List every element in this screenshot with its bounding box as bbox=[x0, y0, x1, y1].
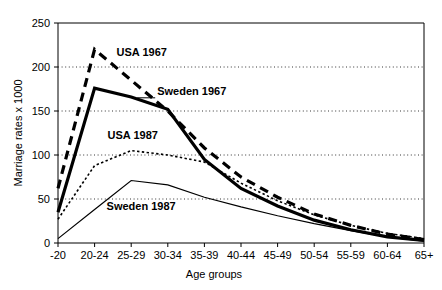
series-label-usa-1967: USA 1967 bbox=[117, 46, 167, 58]
x-tick-label: 60-64 bbox=[373, 249, 401, 261]
marriage-rates-line-chart: 050100150200250 -2020-2425-2930-3435-394… bbox=[0, 0, 442, 290]
x-axis-title: Age groups bbox=[186, 268, 243, 280]
x-tick-label: 20-24 bbox=[81, 249, 109, 261]
series-label-usa-1987: USA 1987 bbox=[108, 129, 158, 141]
y-tick-label: 50 bbox=[38, 193, 50, 205]
series-label-sweden-1967: Sweden 1967 bbox=[157, 85, 226, 97]
y-tick-label: 200 bbox=[32, 61, 50, 73]
y-tick-label: 100 bbox=[32, 149, 50, 161]
y-tick-label: 250 bbox=[32, 17, 50, 29]
y-tick-label: 150 bbox=[32, 105, 50, 117]
x-tick-label: 65+ bbox=[415, 249, 434, 261]
x-tick-label: 50-54 bbox=[300, 249, 328, 261]
x-tick-label: 40-44 bbox=[227, 249, 255, 261]
y-tick-label: 0 bbox=[44, 237, 50, 249]
x-tick-label: -20 bbox=[50, 249, 66, 261]
x-tick-label: 55-59 bbox=[337, 249, 365, 261]
series-label-sweden-1987: Sweden 1987 bbox=[107, 200, 176, 212]
chart-container: 050100150200250 -2020-2425-2930-3435-394… bbox=[0, 0, 442, 290]
x-tick-label: 45-49 bbox=[264, 249, 292, 261]
x-tick-label: 25-29 bbox=[117, 249, 145, 261]
x-tick-label: 30-34 bbox=[154, 249, 182, 261]
y-axis-title: Marriage rates x 1000 bbox=[12, 80, 24, 187]
chart-background bbox=[0, 0, 442, 290]
x-tick-label: 35-39 bbox=[190, 249, 218, 261]
